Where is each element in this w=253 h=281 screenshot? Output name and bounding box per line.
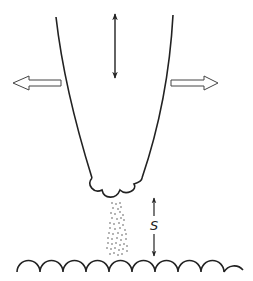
scalloped-substrate bbox=[17, 261, 243, 273]
standoff-label: S bbox=[150, 218, 158, 233]
diagram-canvas: S bbox=[0, 0, 253, 281]
nozzle-right-wall bbox=[142, 15, 173, 178]
left-expansion-arrow bbox=[13, 76, 61, 90]
particle-spray bbox=[106, 202, 127, 255]
nozzle-tip-lobes bbox=[90, 178, 142, 197]
nozzle-left-wall bbox=[56, 17, 92, 178]
right-expansion-arrow bbox=[171, 76, 218, 90]
